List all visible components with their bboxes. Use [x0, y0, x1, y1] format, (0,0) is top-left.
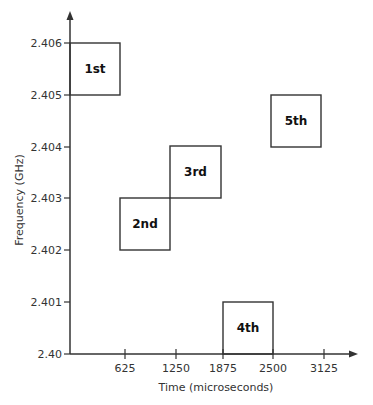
x-tick-label: 1875 [209, 362, 237, 375]
frequency-hopping-diagram: 2.406 2.405 2.404 2.403 2.402 2.401 2.40… [0, 0, 373, 405]
box-label: 5th [285, 114, 308, 128]
y-tick-label: 2.40 [38, 348, 63, 361]
y-tick-label: 2.401 [31, 296, 63, 309]
y-tick-label: 2.405 [31, 89, 63, 102]
y-axis-arrow-icon [67, 11, 74, 20]
x-tick-label: 2500 [259, 362, 287, 375]
y-tick-label: 2.402 [31, 244, 63, 257]
hop-box-2nd: 2nd [120, 198, 170, 250]
y-tick-label: 2.406 [31, 37, 63, 50]
y-tick-labels: 2.406 2.405 2.404 2.403 2.402 2.401 2.40 [31, 37, 63, 361]
y-axis-label: Frequency (GHz) [13, 154, 26, 245]
y-tick-label: 2.403 [31, 192, 63, 205]
x-tick-label: 625 [115, 362, 136, 375]
hop-box-3rd: 3rd [170, 146, 221, 198]
x-tick-labels: 625 1250 1875 2500 3125 [115, 362, 339, 375]
hop-box-5th: 5th [271, 95, 321, 147]
hop-box-4th: 4th [223, 302, 273, 354]
box-label: 3rd [184, 165, 207, 179]
y-ticks [64, 43, 70, 354]
box-label: 2nd [132, 217, 157, 231]
x-axis-arrow-icon [349, 351, 358, 358]
hop-box-1st: 1st [70, 43, 120, 95]
y-tick-label: 2.404 [31, 141, 63, 154]
x-axis-label: Time (microseconds) [158, 381, 274, 394]
box-label: 4th [237, 321, 260, 335]
x-tick-label: 1250 [162, 362, 190, 375]
box-label: 1st [84, 62, 105, 76]
x-tick-label: 3125 [310, 362, 338, 375]
